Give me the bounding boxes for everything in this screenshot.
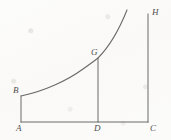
point-label-D: D [94, 124, 101, 133]
figure-canvas [0, 0, 171, 140]
point-label-C: C [150, 124, 156, 133]
exponential-curve-BGH [21, 10, 127, 96]
geometry-figure: A B G D C H [0, 0, 171, 140]
point-label-A: A [16, 124, 22, 133]
point-label-B: B [13, 86, 19, 95]
point-label-G: G [91, 48, 98, 57]
point-label-H: H [152, 8, 159, 17]
